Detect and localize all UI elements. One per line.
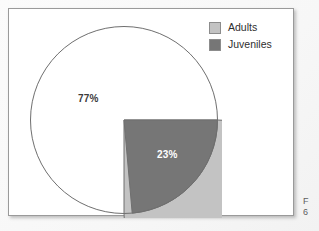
legend-label-juveniles: Juveniles: [228, 38, 272, 51]
square-swatch-icon: [209, 22, 221, 34]
figure-frame: 77% 23% Adults Juveniles: [8, 8, 294, 216]
caption-fragment: F 6: [303, 196, 319, 218]
pie-chart-svg: [26, 22, 222, 218]
caption-fragment-line-1: F: [303, 196, 319, 207]
legend-item-adults[interactable]: Adults: [209, 21, 272, 34]
square-swatch-icon: [209, 39, 221, 51]
legend-item-juveniles[interactable]: Juveniles: [209, 38, 272, 51]
slice-label-adults: 77%: [78, 93, 99, 104]
pie-chart: 77% 23% Adults Juveniles: [9, 9, 295, 217]
chart-legend: Adults Juveniles: [209, 21, 272, 51]
slice-label-juveniles: 23%: [157, 149, 178, 160]
legend-label-adults: Adults: [228, 21, 257, 34]
caption-fragment-line-2: 6: [303, 207, 319, 218]
